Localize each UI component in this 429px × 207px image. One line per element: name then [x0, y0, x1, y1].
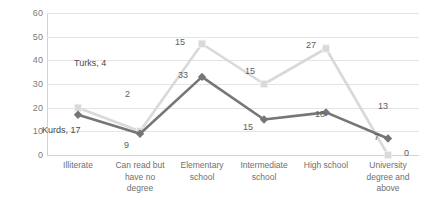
- x-category-illiterate: Illiterate: [47, 160, 109, 207]
- x-category-intermediate-school: Intermediate school: [233, 160, 295, 207]
- x-cat-line1: High school: [296, 160, 356, 172]
- x-cat-line2: degree and: [358, 172, 418, 184]
- data-point-kurds-5: [384, 134, 392, 142]
- x-cat-line2: school: [234, 172, 294, 184]
- series-line-kurds: [78, 77, 388, 139]
- turks-series-annotation: Turks, 4: [74, 59, 106, 68]
- y-tick-40: 40: [19, 56, 43, 65]
- x-category-university-degree-and-above: University degree and above: [357, 160, 419, 207]
- data-point-turks-0: [74, 104, 81, 111]
- kurds-label-intermediate: 15: [243, 123, 253, 132]
- turks-label-high-school: 27: [306, 41, 316, 50]
- data-point-turks-3: [260, 80, 267, 87]
- y-tick-20: 20: [19, 104, 43, 113]
- x-cat-line3: degree: [110, 183, 170, 195]
- x-cat-line1: University: [358, 160, 418, 172]
- turks-label-can-read: 2: [125, 90, 130, 99]
- data-point-kurds-0: [74, 111, 82, 119]
- x-cat-line1: Can read but: [110, 160, 170, 172]
- x-cat-line1: Intermediate: [234, 160, 294, 172]
- x-category-elementary-school: Elementary school: [171, 160, 233, 207]
- data-point-turks-2: [198, 40, 205, 47]
- y-tick-30: 30: [19, 80, 43, 89]
- data-point-turks-4: [322, 45, 329, 52]
- turks-label-elementary: 15: [175, 38, 185, 47]
- series-svg: [47, 13, 419, 155]
- x-cat-line2: have no: [110, 172, 170, 184]
- x-category-can-read-no-degree: Can read but have no degree: [109, 160, 171, 207]
- series-kurds: [74, 73, 392, 143]
- y-tick-0: 0: [19, 151, 43, 160]
- x-cat-line2: school: [172, 172, 232, 184]
- kurds-label-high-school: 18: [315, 110, 325, 119]
- plot-area: Turks, 4 2 15 15 27 13 0 Kurds, 17 9 33 …: [47, 13, 419, 155]
- x-cat-line1: Illiterate: [48, 160, 108, 172]
- x-cat-line3: above: [358, 183, 418, 195]
- x-axis-labels: Illiterate Can read but have no degree E…: [47, 160, 419, 207]
- y-tick-10: 10: [19, 127, 43, 136]
- turks-label-university: 13: [378, 102, 388, 111]
- x-cat-line1: Elementary: [172, 160, 232, 172]
- line-chart: 60 50 40 30 20 10 0 Turks, 4 2 15 15 27 …: [0, 0, 429, 207]
- turks-label-end-zero: 0: [404, 149, 409, 158]
- kurds-label-elementary: 33: [178, 71, 188, 80]
- y-axis-labels: 60 50 40 30 20 10 0: [17, 13, 43, 155]
- x-axis-baseline: [47, 155, 419, 156]
- y-tick-50: 50: [19, 33, 43, 42]
- kurds-label-university: 7: [374, 133, 379, 142]
- data-point-turks-5: [384, 151, 391, 158]
- turks-label-intermediate: 15: [245, 67, 255, 76]
- kurds-label-can-read: 9: [124, 141, 129, 150]
- x-category-high-school: High school: [295, 160, 357, 207]
- y-tick-60: 60: [19, 9, 43, 18]
- kurds-series-annotation: Kurds, 17: [42, 126, 81, 135]
